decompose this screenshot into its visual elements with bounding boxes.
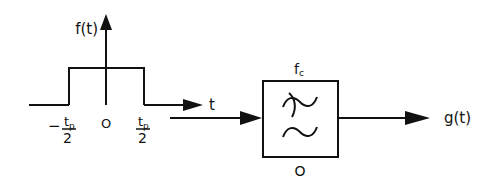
block-diagram: f(t) t − tp 2 O tp 2 fc [0, 0, 496, 185]
x-axis-arrowhead-icon [183, 99, 203, 111]
output-label: g(t) [444, 109, 471, 127]
right-edge-label: tp 2 [136, 114, 150, 146]
minus-sign: − [48, 117, 61, 135]
y-axis-arrowhead-icon [100, 14, 112, 30]
left-denominator: 2 [63, 130, 72, 146]
input-arrowhead-icon [240, 111, 262, 125]
output-arrowhead-icon [405, 111, 430, 125]
filter-block: fc O [263, 61, 338, 179]
x-axis-label: t [209, 96, 215, 114]
y-axis-label: f(t) [75, 20, 98, 38]
signal-plot: f(t) t − tp 2 O tp 2 [29, 14, 215, 146]
filter-box [263, 81, 338, 157]
filter-cutoff-label: fc [294, 61, 304, 78]
output-arrow [338, 111, 430, 125]
origin-label: O [101, 116, 111, 131]
input-arrow [170, 111, 262, 125]
right-denominator: 2 [138, 130, 147, 146]
left-edge-label: − tp 2 [48, 114, 76, 146]
low-pass-filter-icon [283, 93, 317, 137]
filter-bottom-label: O [294, 163, 305, 179]
